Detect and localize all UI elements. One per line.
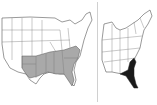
us-map	[0, 0, 97, 105]
eastern-us-outline	[102, 10, 152, 74]
map-panel-us-range	[0, 0, 97, 105]
map-panel-florida-range	[98, 0, 157, 105]
eastern-us-map	[98, 0, 157, 105]
